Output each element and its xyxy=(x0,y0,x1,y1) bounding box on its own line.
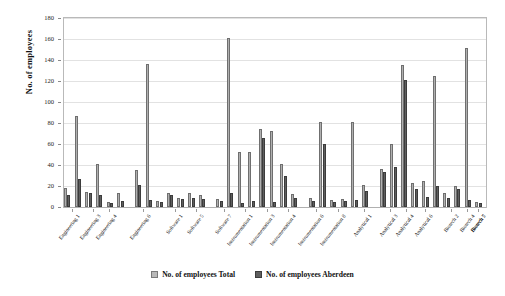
bar-aberdeen-12 xyxy=(202,199,205,207)
bar-aberdeen-29 xyxy=(404,80,407,207)
x-tick-mark-15 xyxy=(425,209,426,212)
legend-swatch-aberdeen-icon xyxy=(255,271,262,278)
bar-aberdeen-25 xyxy=(355,200,358,207)
x-tick-mark-19 xyxy=(478,209,479,212)
bar-aberdeen-33 xyxy=(447,198,450,207)
bar-aberdeen-30 xyxy=(415,189,418,207)
bar-total-7 xyxy=(146,64,149,207)
y-tick-label-60: 60 xyxy=(48,141,55,148)
legend-item-total[interactable]: No. of employees Total xyxy=(151,270,235,279)
x-tick-mark-4 xyxy=(175,209,176,212)
bar-aberdeen-36 xyxy=(479,203,482,207)
bar-aberdeen-16 xyxy=(252,201,255,207)
legend-swatch-total-icon xyxy=(151,271,158,278)
bar-aberdeen-31 xyxy=(426,197,429,208)
x-tick-mark-3 xyxy=(143,209,144,212)
x-tick-mark-9 xyxy=(288,209,289,212)
bar-aberdeen-18 xyxy=(273,202,276,207)
y-tick-mark-100 xyxy=(58,102,61,103)
x-tick-label-3: Engineering 6 xyxy=(128,213,151,241)
y-tick-mark-0 xyxy=(58,207,61,208)
x-tick-mark-14 xyxy=(406,209,407,212)
x-tick-mark-8 xyxy=(267,209,268,212)
bar-total-18 xyxy=(270,131,273,207)
bar-aberdeen-2 xyxy=(89,193,92,207)
bar-aberdeen-11 xyxy=(192,198,195,207)
bar-aberdeen-8 xyxy=(160,202,163,207)
y-tick-label-100: 100 xyxy=(44,99,54,106)
bar-total-15 xyxy=(238,152,241,207)
bar-aberdeen-7 xyxy=(149,200,152,207)
bar-aberdeen-28 xyxy=(394,167,397,207)
bar-aberdeen-19 xyxy=(284,176,287,208)
y-axis-labels: 020406080100120140160180 xyxy=(0,17,61,208)
x-tick-label-15: Analytical 6 xyxy=(412,213,433,238)
y-tick-mark-60 xyxy=(58,144,61,145)
x-tick-label-12: Analytical 1 xyxy=(352,213,373,238)
y-tick-mark-160 xyxy=(58,39,61,40)
bar-total-14 xyxy=(227,38,230,207)
bar-aberdeen-3 xyxy=(99,195,102,207)
bar-aberdeen-5 xyxy=(121,201,124,207)
x-tick-label-5: Software 5 xyxy=(185,213,204,235)
bar-aberdeen-26 xyxy=(365,191,368,207)
plot-area xyxy=(63,17,487,208)
y-tick-mark-140 xyxy=(58,60,61,61)
x-tick-mark-12 xyxy=(364,209,365,212)
bar-aberdeen-34 xyxy=(457,189,460,207)
legend-item-aberdeen[interactable]: No. of employees Aberdeen xyxy=(255,270,354,279)
legend-label-total: No. of employees Total xyxy=(162,270,235,279)
y-tick-label-140: 140 xyxy=(44,57,54,64)
bar-total-25 xyxy=(351,122,354,207)
x-tick-mark-17 xyxy=(467,209,468,212)
x-tick-mark-6 xyxy=(224,209,225,212)
gridline-0 xyxy=(64,207,486,208)
x-tick-label-16: Biotech 2 xyxy=(442,213,460,233)
x-tick-mark-13 xyxy=(390,209,391,212)
bar-total-35 xyxy=(465,48,468,207)
y-tick-label-160: 160 xyxy=(44,36,54,43)
bar-aberdeen-13 xyxy=(220,201,223,207)
bar-aberdeen-27 xyxy=(383,172,386,207)
bar-aberdeen-20 xyxy=(294,198,297,207)
bar-aberdeen-35 xyxy=(468,200,471,207)
chart-legend: No. of employees Total No. of employees … xyxy=(0,270,505,279)
x-tick-mark-1 xyxy=(93,209,94,212)
chart-root: No. of employees 02040608010012014016018… xyxy=(0,0,505,296)
bar-aberdeen-22 xyxy=(323,144,326,207)
x-tick-label-4: Software 1 xyxy=(164,213,183,235)
y-tick-mark-120 xyxy=(58,81,61,82)
bar-total-16 xyxy=(248,152,251,207)
x-tick-mark-5 xyxy=(196,209,197,212)
y-tick-mark-80 xyxy=(58,123,61,124)
y-tick-label-20: 20 xyxy=(48,183,55,190)
x-tick-mark-11 xyxy=(338,209,339,212)
bar-aberdeen-1 xyxy=(78,179,81,207)
bar-aberdeen-4 xyxy=(110,203,113,207)
bars-container xyxy=(64,18,486,207)
x-tick-mark-7 xyxy=(245,209,246,212)
bar-aberdeen-21 xyxy=(312,201,315,207)
bar-aberdeen-9 xyxy=(170,195,173,207)
x-axis-labels: Engineering 1Engineering 3Engineering 4E… xyxy=(63,209,487,261)
y-tick-label-120: 120 xyxy=(44,78,54,85)
bar-aberdeen-15 xyxy=(241,203,244,207)
y-tick-mark-20 xyxy=(58,186,61,187)
bar-aberdeen-0 xyxy=(67,195,70,207)
y-tick-mark-180 xyxy=(58,18,61,19)
bar-aberdeen-24 xyxy=(344,201,347,207)
x-tick-mark-16 xyxy=(451,209,452,212)
x-tick-label-6: Software 7 xyxy=(214,213,233,235)
bar-aberdeen-14 xyxy=(230,193,233,207)
bar-aberdeen-17 xyxy=(262,138,265,207)
bar-aberdeen-23 xyxy=(333,202,336,207)
y-tick-label-80: 80 xyxy=(48,120,55,127)
x-tick-mark-2 xyxy=(109,209,110,212)
bar-aberdeen-32 xyxy=(436,186,439,207)
bar-aberdeen-10 xyxy=(181,199,184,207)
x-tick-mark-0 xyxy=(72,209,73,212)
y-tick-label-0: 0 xyxy=(51,204,54,211)
y-tick-label-180: 180 xyxy=(44,15,54,22)
y-tick-mark-40 xyxy=(58,165,61,166)
x-tick-mark-10 xyxy=(316,209,317,212)
